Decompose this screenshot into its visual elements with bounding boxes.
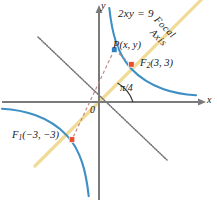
focus-2-marker[interactable] bbox=[129, 62, 135, 68]
focus-2-label-coords: (3, 3) bbox=[150, 57, 173, 68]
origin-label: 0 bbox=[90, 105, 95, 115]
figure-canvas bbox=[0, 0, 217, 202]
x-axis-label: x bbox=[207, 95, 211, 105]
hyperbola-figure: 2xy = 9 P(x, y) F2(3, 3) F1(−3, −3) π/4 … bbox=[0, 0, 217, 202]
x-axis-arrowhead bbox=[198, 99, 206, 106]
angle-label: π/4 bbox=[120, 83, 133, 93]
focus-1-marker[interactable] bbox=[69, 137, 75, 143]
equation-label: 2xy = 9 bbox=[118, 8, 154, 19]
point-p-label: P(x, y) bbox=[113, 40, 141, 51]
focus-2-label: F2(3, 3) bbox=[140, 58, 173, 70]
focus-1-label: F1(−3, −3) bbox=[12, 130, 59, 142]
focus-1-label-coords: (−3, −3) bbox=[22, 129, 59, 140]
hyperbola-branch-lower-left bbox=[2, 109, 89, 196]
y-axis-label: y bbox=[101, 1, 105, 11]
